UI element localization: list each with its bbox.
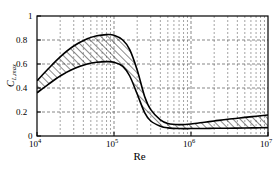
x-tick-label: 104 bbox=[29, 140, 41, 149]
y-tick-label: 0.2 bbox=[16, 108, 27, 117]
y-tick-label: 0.6 bbox=[16, 60, 27, 69]
lift-coefficient-vs-reynolds-chart bbox=[0, 0, 279, 170]
y-axis-label-base: C bbox=[5, 80, 16, 87]
y-tick-label: 0 bbox=[28, 132, 33, 141]
y-tick-label: 0.8 bbox=[16, 36, 27, 45]
chart-figure: CL,max Re 10410510610700.20.40.60.81 bbox=[0, 0, 279, 170]
y-axis-label: CL,max bbox=[5, 54, 16, 98]
y-tick-label: 1 bbox=[28, 12, 33, 21]
x-tick-label: 107 bbox=[260, 140, 272, 149]
y-tick-label: 0.4 bbox=[16, 84, 27, 93]
x-axis-label: Re bbox=[0, 150, 279, 162]
x-tick-label: 106 bbox=[183, 140, 195, 149]
x-tick-label: 105 bbox=[106, 140, 118, 149]
